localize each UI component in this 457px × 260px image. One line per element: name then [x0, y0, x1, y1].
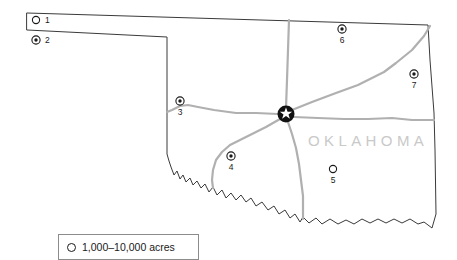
site-marker-label-6: 6: [340, 35, 345, 45]
capital-marker-oklahoma-city[interactable]: [278, 106, 295, 123]
state-name-label: OKLAHOMA: [308, 132, 428, 149]
marker-symbol-open-circle: [329, 165, 336, 172]
site-marker-label-3: 3: [178, 107, 183, 117]
site-marker-label-1: 1: [45, 15, 50, 25]
marker-symbol-bullseye-core: [34, 38, 37, 41]
site-marker-label-7: 7: [412, 80, 417, 90]
legend-label: 1,000–10,000 acres: [82, 241, 175, 253]
marker-symbol-bullseye-core: [178, 99, 181, 102]
site-marker-label-2: 2: [45, 35, 50, 45]
map-legend: 1,000–10,000 acres: [58, 234, 199, 260]
marker-symbol-bullseye-core: [229, 154, 232, 157]
legend-open-circle-icon: [67, 243, 76, 252]
marker-symbol-open-circle: [32, 16, 39, 23]
state-boundary-oklahoma: [27, 13, 436, 228]
site-marker-label-5: 5: [331, 175, 336, 185]
marker-symbol-bullseye-core: [340, 27, 343, 30]
site-marker-2[interactable]: 2: [32, 35, 50, 45]
marker-symbol-bullseye-core: [412, 72, 415, 75]
site-marker-label-4: 4: [229, 162, 234, 172]
